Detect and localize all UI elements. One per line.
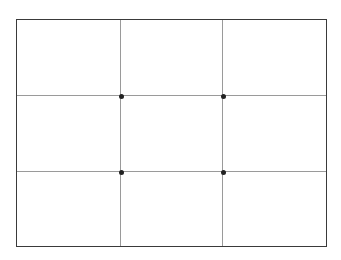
- intersection-dot-bottom-right: [221, 170, 226, 175]
- grid-frame: [16, 19, 327, 247]
- grid-line-vertical-2: [222, 20, 223, 246]
- intersection-dot-bottom-left: [119, 170, 124, 175]
- grid-line-horizontal-2: [17, 171, 326, 172]
- intersection-dot-top-left: [119, 94, 124, 99]
- grid-line-horizontal-1: [17, 95, 326, 96]
- intersection-dot-top-right: [221, 94, 226, 99]
- grid-line-vertical-1: [120, 20, 121, 246]
